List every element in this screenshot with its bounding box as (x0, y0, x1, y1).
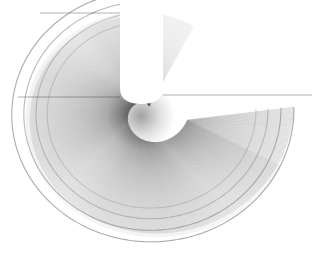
string-art-figure: Spiral string-art envelope Dense fan of … (0, 0, 321, 256)
caustic-focus (107, 82, 175, 150)
envelope-plot-canvas (0, 0, 321, 256)
notch-mask-group (107, 82, 175, 150)
